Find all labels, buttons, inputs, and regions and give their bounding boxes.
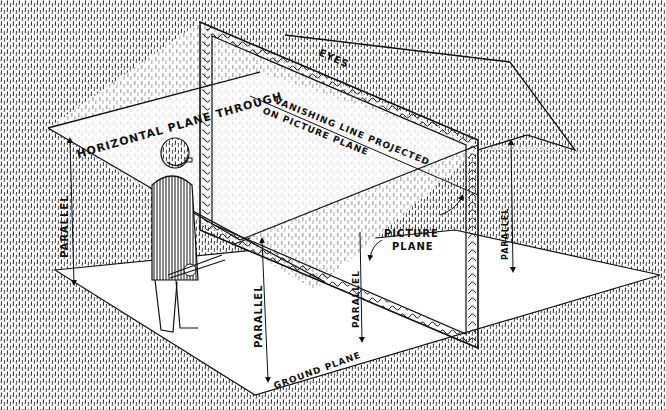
label-parallel-right: PARALLEL (501, 208, 510, 260)
label-parallel-center-right: PARALLEL (351, 270, 361, 328)
diagram-canvas: HORIZONTAL PLANE THROUGH EYES VANISHING … (0, 0, 666, 410)
label-parallel-left: PARALLEL (59, 194, 70, 258)
perspective-diagram: HORIZONTAL PLANE THROUGH EYES VANISHING … (0, 0, 666, 410)
label-picture-2: PLANE (392, 241, 434, 252)
label-parallel-center-left: PARALLEL (253, 284, 264, 348)
artist-head (161, 138, 189, 168)
label-picture-1: PICTURE (384, 228, 439, 239)
